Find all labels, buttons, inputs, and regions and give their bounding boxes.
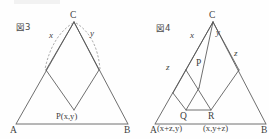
figure-sheet: 図3 C A B x y P(x,y) xyxy=(0,0,269,139)
fig4-label-y: y xyxy=(215,27,220,37)
fig3-vertex-B: B xyxy=(124,125,130,135)
fig3-arc-y xyxy=(76,23,100,69)
figure-3-caption: 図3 xyxy=(16,22,30,32)
fig4-q-coords: (x+z,y) xyxy=(157,123,182,133)
fig4-label-z-right: z xyxy=(233,48,238,58)
fig4-segment-L1-to-L2 xyxy=(173,70,186,93)
fig4-point-Q: Q xyxy=(180,111,187,121)
fig3-label-y: y xyxy=(89,28,94,38)
figures-canvas: 図3 C A B x y P(x,y) xyxy=(0,0,269,139)
fig4-label-x: x xyxy=(189,30,194,40)
fig4-vertex-B: B xyxy=(261,125,267,135)
fig4-r-coords: (x,y+z) xyxy=(203,123,228,133)
fig3-segment-P-to-right-mid xyxy=(74,70,99,110)
fig4-segment-Q-to-P-area xyxy=(186,88,199,110)
figure-4-caption: 図4 xyxy=(156,23,170,33)
top-edge-artifact xyxy=(14,0,60,4)
fig4-vertex-C: C xyxy=(209,10,215,20)
fig4-segment-P-up-to-C xyxy=(199,22,213,88)
fig3-vertex-C: C xyxy=(70,10,76,20)
fig4-point-P: P xyxy=(196,58,201,68)
fig4-point-R: R xyxy=(208,111,215,121)
fig3-label-x: x xyxy=(48,30,53,40)
figure-3-group: 図3 C A B x y P(x,y) xyxy=(10,10,130,135)
fig3-point-coords: P(x,y) xyxy=(56,111,77,121)
fig3-segment-left-mid-to-P xyxy=(46,70,74,110)
fig4-label-z-left: z xyxy=(165,62,170,72)
fig3-vertex-A: A xyxy=(10,125,17,135)
fig4-segment-Rm-to-R xyxy=(211,70,239,110)
fig4-vertex-A: A xyxy=(150,125,157,135)
fig4-segment-L2-to-Q xyxy=(173,93,186,110)
figure-4-group: 図4 C A B x y z z P Q R (x+z,y) (x,y+z) xyxy=(150,10,267,135)
fig3-segment-right-mid-to-C xyxy=(74,22,99,70)
